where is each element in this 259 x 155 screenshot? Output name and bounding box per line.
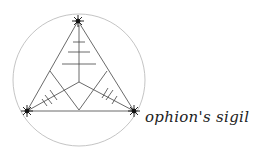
star-bottom-right (128, 105, 140, 117)
star-top (72, 15, 84, 27)
sigil-icon (0, 0, 259, 155)
wordmark: ophion's sigil (145, 108, 249, 126)
